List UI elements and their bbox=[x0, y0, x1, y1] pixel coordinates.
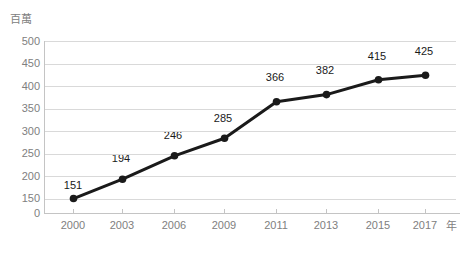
data-point-marker bbox=[70, 195, 78, 203]
data-series-markers bbox=[70, 71, 430, 202]
data-point-marker bbox=[422, 71, 430, 79]
data-series-line bbox=[74, 75, 426, 198]
data-point-marker bbox=[221, 134, 229, 142]
line-chart: 百萬 年 500 450 400 350 300 250 200 150 0 2… bbox=[0, 0, 474, 253]
plot-area bbox=[0, 0, 474, 253]
data-point-marker bbox=[171, 152, 179, 160]
data-point-marker bbox=[273, 98, 281, 106]
data-point-marker bbox=[119, 175, 127, 183]
x-axis-ticks bbox=[74, 209, 426, 213]
data-point-marker bbox=[323, 91, 331, 99]
data-point-marker bbox=[375, 76, 383, 84]
